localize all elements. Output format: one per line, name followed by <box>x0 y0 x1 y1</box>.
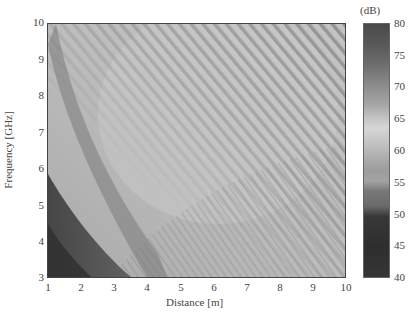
y-tick-9: 9 <box>30 54 44 65</box>
x-axis-label: Distance [m] <box>166 296 223 308</box>
colorbar-tick-55: 55 <box>394 177 405 188</box>
colorbar-tick-50: 50 <box>394 209 405 220</box>
x-tick-3: 3 <box>104 282 124 293</box>
colorbar-tick-60: 60 <box>394 145 405 156</box>
y-tick-4: 4 <box>30 236 44 247</box>
x-tick-1: 1 <box>38 282 58 293</box>
colorbar-tick-80: 80 <box>394 18 405 29</box>
heatmap-plot-area <box>47 23 346 278</box>
y-tick-8: 8 <box>30 90 44 101</box>
colorbar <box>363 23 390 278</box>
y-tick-10: 10 <box>30 17 44 28</box>
x-tick-7: 7 <box>237 282 257 293</box>
y-axis-label: Frequency [GHz] <box>2 111 14 188</box>
figure: Frequency [GHz] <box>0 0 420 321</box>
colorbar-tick-45: 45 <box>394 240 405 251</box>
x-tick-5: 5 <box>171 282 191 293</box>
colorbar-tick-40: 40 <box>394 272 405 283</box>
y-tick-7: 7 <box>30 127 44 138</box>
heatmap-image <box>48 24 346 278</box>
y-tick-5: 5 <box>30 200 44 211</box>
x-tick-6: 6 <box>204 282 224 293</box>
x-tick-10: 10 <box>336 282 356 293</box>
x-tick-4: 4 <box>137 282 157 293</box>
colorbar-tick-75: 75 <box>394 50 405 61</box>
colorbar-unit-label: (dB) <box>360 4 380 16</box>
y-tick-6: 6 <box>30 163 44 174</box>
x-tick-9: 9 <box>303 282 323 293</box>
x-tick-2: 2 <box>71 282 91 293</box>
x-tick-8: 8 <box>270 282 290 293</box>
colorbar-tick-70: 70 <box>394 81 405 92</box>
colorbar-tick-65: 65 <box>394 113 405 124</box>
